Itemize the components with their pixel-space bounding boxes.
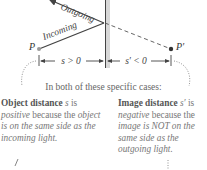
outgoing-label: Outgoing [59,2,96,25]
object-point [37,47,41,51]
object-label: P [28,41,35,52]
object-distance-label: s > 0 [61,56,81,66]
incoming-label: Incoming [40,20,78,43]
mirror-shade [106,0,110,68]
object-note-title: Object distance [1,98,63,108]
image-note-title: Image distance [118,98,178,108]
virtual-ray-extension [105,23,171,49]
left-pointer [15,159,18,166]
image-note-reason: image is NOT on the same side as the out… [118,121,195,154]
image-distance-note: Image distance s′ is negative because th… [118,98,207,156]
caption: In both of these specific cases: [0,82,207,92]
image-label: P′ [175,41,185,52]
image-distance-label: s′ < 0 [125,56,147,66]
object-distance-note: Object distance s is positive because th… [1,98,101,144]
image-point [169,47,173,51]
